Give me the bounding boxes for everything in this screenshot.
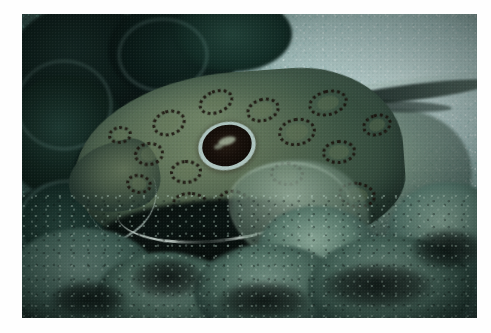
photo-frame: [0, 0, 491, 333]
underwater-photograph: [22, 14, 477, 318]
film-grain: [22, 14, 477, 318]
